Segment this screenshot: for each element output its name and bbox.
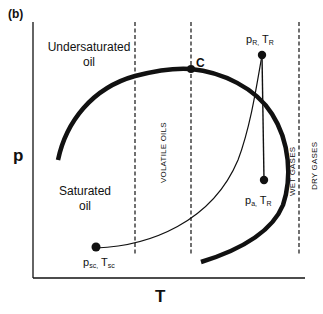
panel-label: (b)	[8, 8, 23, 20]
undersaturated-oil-label: Undersaturated oil	[44, 41, 134, 68]
abandonment-p-sub: a,	[251, 200, 257, 207]
standard-t-sub: sc	[108, 262, 115, 269]
volatile-oils-label: VOLATILE OILS	[160, 122, 168, 183]
saturated-oil-label: Saturated oil	[55, 185, 115, 212]
abandonment-point-marker	[260, 176, 268, 184]
critical-point-label: C	[196, 57, 205, 69]
standard-t: T	[101, 256, 108, 268]
dry-gases-label: DRY GASES	[311, 142, 319, 190]
standard-conditions-label: psc, Tsc	[83, 257, 115, 269]
abandonment-t: T	[260, 194, 267, 206]
wet-gases-label: WET GASES	[289, 147, 297, 196]
standard-conditions-marker	[92, 243, 101, 252]
undersaturated-text: Undersaturated	[44, 41, 134, 53]
y-axis-label: p	[13, 147, 23, 164]
x-axis-label: T	[155, 288, 165, 305]
abandonment-point-label: pa, TR	[245, 195, 272, 207]
undersaturated-oil-text: oil	[44, 56, 134, 68]
phase-envelope-curve	[58, 69, 288, 262]
saturated-oil-text: oil	[55, 200, 115, 212]
standard-p-sub: sc,	[89, 262, 98, 269]
critical-point-marker	[187, 65, 195, 73]
reservoir-t-sub: R	[269, 39, 274, 46]
reservoir-t: T	[262, 33, 269, 45]
abandonment-t-sub: R	[267, 200, 272, 207]
isothermal-depletion-line	[262, 55, 264, 180]
reservoir-point-marker	[258, 51, 266, 59]
reservoir-p-sub: R,	[252, 39, 259, 46]
reservoir-point-label: pR, TR	[246, 34, 274, 46]
saturated-text: Saturated	[55, 185, 115, 197]
